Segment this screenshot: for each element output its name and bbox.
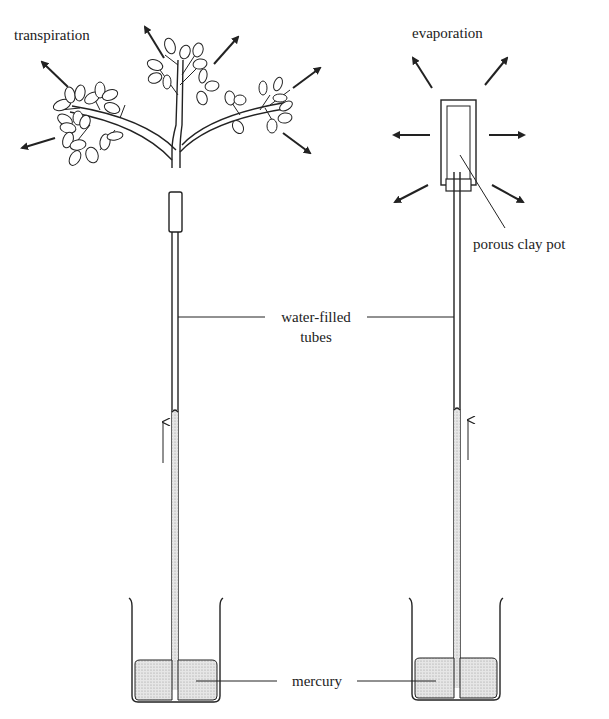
- right-water-tube: [454, 172, 460, 688]
- porous-clay-pot: [441, 100, 476, 191]
- transpiration-label: transpiration: [14, 27, 90, 43]
- clay-pot-apparatus: [394, 58, 524, 700]
- tubes-label-line1: water-filled: [281, 309, 351, 325]
- plant-apparatus: [22, 27, 320, 702]
- mercury-label: mercury: [292, 673, 342, 689]
- porous-pot-label: porous clay pot: [473, 236, 566, 252]
- tubes-label-line2: tubes: [300, 329, 332, 345]
- transpiration-diagram: transpiration evaporation porous clay po…: [0, 0, 609, 719]
- rubber-connector: [169, 192, 182, 232]
- evaporation-label: evaporation: [412, 25, 483, 41]
- left-water-tube: [172, 232, 178, 690]
